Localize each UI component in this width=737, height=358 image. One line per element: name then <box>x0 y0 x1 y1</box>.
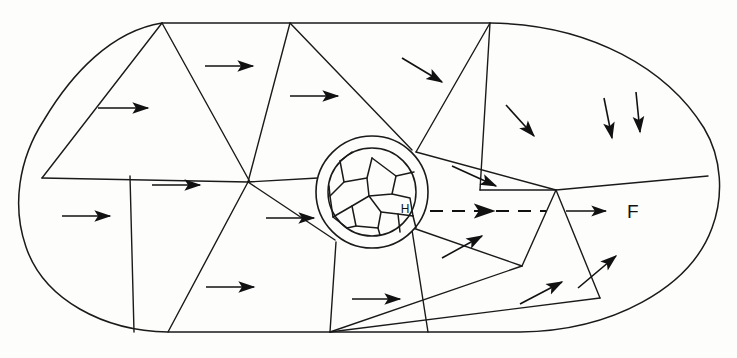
central-hub: H <box>316 136 428 248</box>
diagram-root: H F <box>0 0 737 358</box>
hub-label: H <box>401 202 410 216</box>
force-label: F <box>627 201 639 222</box>
flow-diagram-figure: H F <box>0 0 737 358</box>
